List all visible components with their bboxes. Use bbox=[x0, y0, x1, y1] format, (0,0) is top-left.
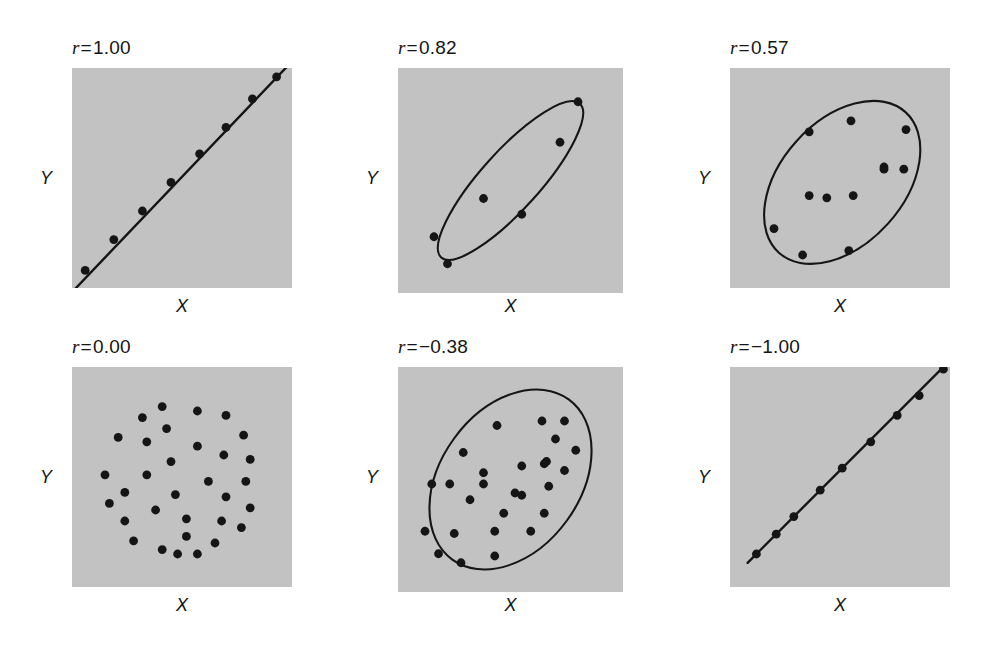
r-symbol: r bbox=[730, 336, 738, 357]
data-point bbox=[915, 391, 924, 400]
data-point bbox=[816, 486, 825, 495]
x-axis-label: X bbox=[730, 595, 950, 616]
scatter-panel-6: r=−1.00XY bbox=[0, 0, 1001, 648]
data-point bbox=[772, 530, 781, 539]
data-point bbox=[866, 437, 875, 446]
plot-area bbox=[730, 367, 950, 587]
data-point bbox=[789, 512, 798, 521]
y-axis-label: Y bbox=[682, 467, 710, 488]
data-point bbox=[939, 365, 948, 374]
data-point bbox=[893, 411, 902, 420]
panel-title-r-value: r=−1.00 bbox=[730, 336, 800, 358]
correlation-scatterplot-figure: r=1.00XYr=0.82XYr=0.57XYr=0.00XYr=−0.38X… bbox=[0, 0, 1001, 648]
equals-sign: = bbox=[738, 336, 751, 357]
r-value-text: −1.00 bbox=[751, 336, 800, 357]
plot-canvas bbox=[730, 367, 950, 587]
data-point bbox=[752, 550, 761, 559]
data-point bbox=[838, 464, 847, 473]
